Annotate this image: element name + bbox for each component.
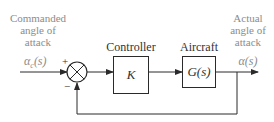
output-label-line-3: attack xyxy=(222,36,274,48)
output-label-line-2: angle of xyxy=(222,24,274,36)
summing-junction-icon xyxy=(67,62,87,82)
controller-title: Controller xyxy=(101,41,161,53)
block-diagram: Commanded angle of attack αc(s) + − Cont… xyxy=(0,0,274,122)
input-label-line-1: Commanded xyxy=(2,12,74,24)
plant-title: Aircraft xyxy=(172,41,226,53)
input-label: Commanded angle of attack xyxy=(2,12,74,48)
output-label-line-1: Actual xyxy=(222,12,274,24)
controller-gain: K xyxy=(127,67,136,83)
input-label-line-2: angle of xyxy=(2,24,74,36)
plant-transfer-function: G(s) xyxy=(187,64,210,80)
minus-sign: − xyxy=(64,80,70,92)
output-symbol: α(s) xyxy=(230,55,266,67)
plant-block: G(s) xyxy=(182,56,216,88)
plus-sign: + xyxy=(62,55,68,67)
input-symbol: αc(s) xyxy=(24,55,47,72)
controller-block: K xyxy=(113,56,149,94)
output-label: Actual angle of attack xyxy=(222,12,274,48)
input-label-line-3: attack xyxy=(2,36,74,48)
